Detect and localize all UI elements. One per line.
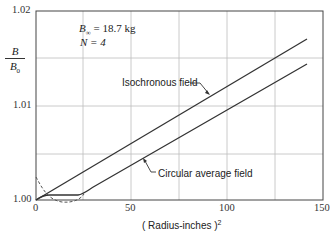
y-tick-1.00: 1.00: [13, 193, 31, 204]
circular-leader: [145, 161, 156, 172]
y-tick-1.02: 1.02: [12, 4, 30, 15]
x-tick-50: 50: [125, 202, 136, 213]
x-tick-0: 0: [33, 202, 38, 213]
circular-field-dashed-curve: [36, 177, 84, 202]
plot-area: [0, 0, 334, 236]
x-tick-150: 150: [314, 202, 330, 213]
isochronous-field-label: Isochronous field: [122, 77, 198, 88]
y-axis-label: B B0: [3, 45, 27, 75]
x-tick-100: 100: [219, 202, 235, 213]
y-tick-1.01: 1.01: [13, 99, 31, 110]
y-label-denominator: B0: [3, 60, 27, 75]
annotation-binf: B∞ = 18.7 kg: [79, 22, 135, 37]
x-axis-label: ( Radius-inches )2: [142, 219, 222, 231]
y-label-numerator: B: [3, 45, 27, 57]
circular-average-field-label: Circular average field: [158, 168, 253, 179]
annotation-n: N = 4: [80, 36, 106, 48]
